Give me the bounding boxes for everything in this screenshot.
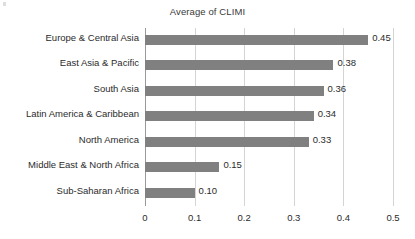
chart-title: Average of CLIMI — [0, 6, 415, 17]
category-label: Middle East & North Africa — [3, 159, 139, 170]
bar-value-label: 0.36 — [328, 83, 347, 94]
plot-area: Europe & Central Asia0.45East Asia & Pac… — [145, 28, 393, 206]
bar-value-label: 0.10 — [199, 185, 218, 196]
category-label: Latin America & Caribbean — [3, 108, 139, 119]
bar-row: East Asia & Pacific0.38 — [145, 53, 393, 78]
x-tick-label: 0.1 — [175, 212, 215, 223]
bar-chart: Average of CLIMI Europe & Central Asia0.… — [0, 0, 415, 239]
category-label: South Asia — [3, 83, 139, 94]
bar-row: Sub-Saharan Africa0.10 — [145, 181, 393, 206]
bar-row: South Asia0.36 — [145, 79, 393, 104]
x-tick-label: 0 — [125, 212, 165, 223]
x-tick-label: 0.5 — [373, 212, 413, 223]
x-tick-label: 0.4 — [323, 212, 363, 223]
bar — [145, 60, 333, 70]
category-label: Sub-Saharan Africa — [3, 185, 139, 196]
bar — [145, 137, 309, 147]
bar-value-label: 0.45 — [372, 32, 391, 43]
bar — [145, 86, 324, 96]
category-label: North America — [3, 134, 139, 145]
bar — [145, 35, 368, 45]
bar-value-label: 0.15 — [223, 159, 242, 170]
bar — [145, 162, 219, 172]
x-tick-label: 0.3 — [274, 212, 314, 223]
bar-row: Europe & Central Asia0.45 — [145, 28, 393, 53]
bar-value-label: 0.34 — [318, 108, 337, 119]
gridline — [393, 28, 394, 206]
bar-value-label: 0.33 — [313, 134, 332, 145]
bar-row: Middle East & North Africa0.15 — [145, 155, 393, 180]
bar — [145, 188, 195, 198]
bar-row: Latin America & Caribbean0.34 — [145, 104, 393, 129]
bar — [145, 111, 314, 121]
bar-row: North America0.33 — [145, 130, 393, 155]
bar-value-label: 0.38 — [337, 57, 356, 68]
category-label: Europe & Central Asia — [3, 32, 139, 43]
x-tick-label: 0.2 — [224, 212, 264, 223]
category-label: East Asia & Pacific — [3, 57, 139, 68]
